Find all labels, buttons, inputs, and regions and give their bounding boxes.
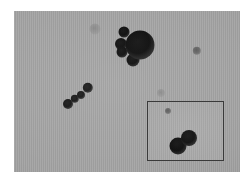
inset-particle-speck	[165, 108, 171, 114]
figure-root: Grayscale micrograph showing dark spheri…	[0, 0, 251, 185]
inset-particle-dimer-upper-right	[181, 130, 197, 146]
particle-isolated-right	[193, 47, 201, 55]
magnified-inset-panel	[147, 101, 224, 161]
particle-chain-3	[77, 91, 85, 99]
particle-smudge-mid-field	[157, 89, 165, 97]
particle-chain-4	[83, 83, 93, 93]
particle-smudge-top-center	[90, 24, 101, 35]
particle-large-blob	[126, 31, 155, 60]
